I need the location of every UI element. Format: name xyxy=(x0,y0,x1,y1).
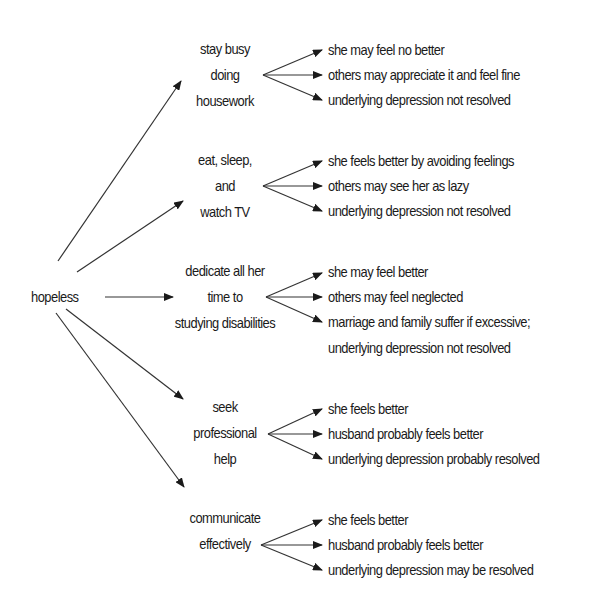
branch-node-communicate-effectively: communicate effectively xyxy=(135,505,315,557)
branch-node-professional-help: seek professional help xyxy=(135,394,315,472)
outcome-1-3: underlying depression not resolved xyxy=(328,90,511,110)
outcome-3-2: others may feel neglected xyxy=(328,287,463,307)
root-node-hopeless: hopeless xyxy=(31,287,79,307)
outcome-2-2: others may see her as lazy xyxy=(328,176,469,196)
outcome-2-1: she feels better by avoiding feelings xyxy=(328,151,514,171)
outcome-3-1: she may feel better xyxy=(328,262,428,282)
outcome-4-3: underlying depression probably resolved xyxy=(328,449,540,469)
outcome-5-3: underlying depression may be resolved xyxy=(328,560,533,580)
branch-node-watch-tv: eat, sleep, and watch TV xyxy=(135,147,315,225)
outcome-2-3: underlying depression not resolved xyxy=(328,201,511,221)
outcome-4-2: husband probably feels better xyxy=(328,424,483,444)
outcome-5-1: she feels better xyxy=(328,510,408,530)
outcome-3-3: marriage and family suffer if excessive; xyxy=(328,312,530,332)
outcome-1-1: she may feel no better xyxy=(328,40,444,60)
branch-node-studying-disabilities: dedicate all her time to studying disabi… xyxy=(135,258,315,336)
outcome-1-2: others may appreciate it and feel fine xyxy=(328,65,520,85)
branch-node-housework: stay busy doing housework xyxy=(135,36,315,114)
outcome-3-4: underlying depression not resolved xyxy=(328,338,511,358)
outcome-4-1: she feels better xyxy=(328,399,408,419)
outcome-5-2: husband probably feels better xyxy=(328,535,483,555)
